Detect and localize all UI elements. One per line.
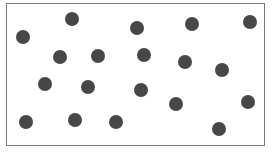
dot bbox=[215, 63, 229, 77]
dot bbox=[16, 30, 30, 44]
dot bbox=[137, 48, 151, 62]
dot bbox=[178, 55, 192, 69]
dot bbox=[19, 115, 33, 129]
dot bbox=[68, 113, 82, 127]
dot bbox=[38, 77, 52, 91]
dot bbox=[134, 83, 148, 97]
dot bbox=[130, 21, 144, 35]
dot bbox=[169, 97, 183, 111]
dot bbox=[65, 12, 79, 26]
dot bbox=[241, 95, 255, 109]
dot bbox=[185, 17, 199, 31]
dot bbox=[91, 49, 105, 63]
dot bbox=[109, 115, 123, 129]
dot bbox=[53, 50, 67, 64]
dot bbox=[81, 80, 95, 94]
dot bbox=[243, 15, 257, 29]
dot bbox=[212, 122, 226, 136]
